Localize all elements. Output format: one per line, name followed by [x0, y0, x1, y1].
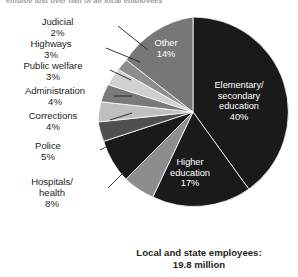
callout-public-welfare: Public welfare 3% [0, 60, 106, 82]
callout-highways: Highways 3% [0, 38, 102, 60]
slice-label-higher-education: Higher education 17% [157, 157, 223, 189]
pie-chart-figure: employ just over half of all local emplo… [0, 0, 298, 277]
callout-police: Police 5% [0, 140, 96, 162]
callout-judicial: Judicial 2% [0, 16, 115, 38]
slice-label-elementary-secondary-education: Elementary/ secondary education 40% [197, 80, 281, 122]
callout-administration: Administration 4% [0, 85, 110, 107]
chart-caption: Local and state employees: 19.8 million [106, 247, 292, 270]
callout-hospitals-health: Hospitals/ health 8% [0, 176, 104, 210]
clipped-headline-text: employ just over half of all local emplo… [6, 0, 266, 3]
callout-corrections: Corrections 4% [0, 110, 106, 132]
slice-label-other: Other 14% [139, 38, 193, 59]
